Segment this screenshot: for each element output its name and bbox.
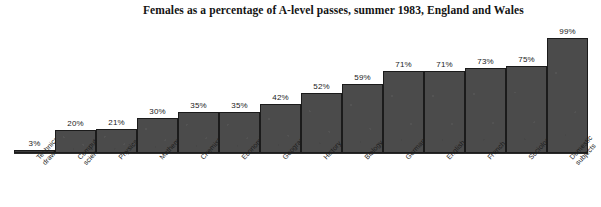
bar [547, 38, 588, 153]
bar-value-label: 20% [53, 119, 99, 128]
bar-value-label: 42% [258, 93, 304, 102]
bar-value-label: 75% [504, 55, 550, 64]
bar-value-label: 99% [545, 27, 591, 36]
bar-value-label: 35% [217, 101, 263, 110]
chart-page: Females as a percentage of A-level passe… [0, 0, 601, 207]
bar-value-label: 71% [381, 60, 427, 69]
bar-value-label: 71% [422, 60, 468, 69]
bar-value-label: 52% [299, 82, 345, 91]
bar-value-label: 35% [176, 101, 222, 110]
bar-value-label: 21% [94, 118, 140, 127]
bar-chart-plot: 3%Technicaldrawing20%Computerscience21%P… [0, 0, 601, 207]
bar-value-label: 73% [463, 57, 509, 66]
bar-value-label: 59% [340, 73, 386, 82]
bar-value-label: 30% [135, 107, 181, 116]
